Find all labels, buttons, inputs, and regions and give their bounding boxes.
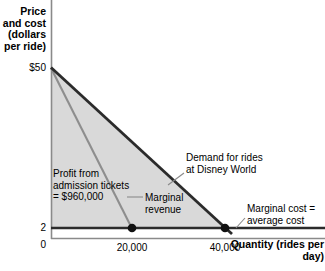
chart-plot-area [0, 0, 325, 271]
marginal-cost-leader-line [236, 218, 245, 228]
economics-chart: Price and cost (dollars per ride) Quanti… [0, 0, 325, 271]
y-tick-label-2: 2 [22, 222, 46, 234]
demand-marginal-cost-point [221, 224, 230, 233]
origin-label: 0 [22, 239, 46, 251]
y-axis-title: Price and cost (dollars per ride) [0, 6, 46, 52]
marginal-revenue-marginal-cost-point [128, 224, 137, 233]
marginal-revenue-annotation: Marginal revenue [145, 192, 205, 215]
x-tick-label-20000: 20,000 [104, 242, 160, 254]
demand-curve-annotation: Demand for rides at Disney World [186, 152, 302, 175]
x-tick-label-40000: 40,000 [197, 242, 253, 254]
profit-annotation: Profit from admission tickets = $960,000 [53, 168, 145, 203]
y-tick-label-50: $50 [12, 62, 46, 74]
y-axis-title-text: Price and cost (dollars per ride) [3, 5, 46, 52]
marginal-cost-annotation: Marginal cost = average cost [247, 203, 325, 226]
